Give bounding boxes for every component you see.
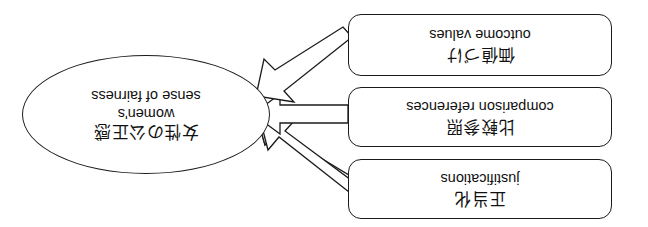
node-womens-sense-of-fairness[interactable]: 女性の公正感 women's sense of fairness: [22, 55, 270, 174]
arrow-outcome: [256, 27, 352, 102]
node-comparison-references-label-en: comparison references: [406, 98, 554, 115]
node-outcome-values-label-en: outcome values: [429, 26, 531, 43]
node-justifications[interactable]: 正当化 justifications: [348, 159, 612, 219]
diagram-canvas: 正当化 justifications 比較参照 comparison refer…: [0, 0, 648, 227]
rotated-figure-group: 正当化 justifications 比較参照 comparison refer…: [0, 0, 648, 227]
node-fairness-label-en-line1: women's: [118, 104, 175, 121]
arrow-justifications-body: [256, 114, 360, 187]
node-outcome-values-label-jp: 価値づけ: [445, 44, 515, 63]
arrow-justifications: [256, 114, 350, 187]
node-comparison-references-label-jp: 比較参照: [445, 116, 515, 135]
node-fairness-label-en-line2: sense of fairness: [91, 87, 201, 104]
node-justifications-label-jp: 正当化: [454, 188, 507, 207]
arrow-justifications-shape: [258, 111, 355, 192]
node-fairness-label-jp: 女性の公正感: [94, 122, 199, 142]
node-outcome-values[interactable]: 価値づけ outcome values: [348, 14, 612, 76]
node-comparison-references[interactable]: 比較参照 comparison references: [348, 87, 612, 147]
node-justifications-label-en: justifications: [441, 170, 520, 187]
